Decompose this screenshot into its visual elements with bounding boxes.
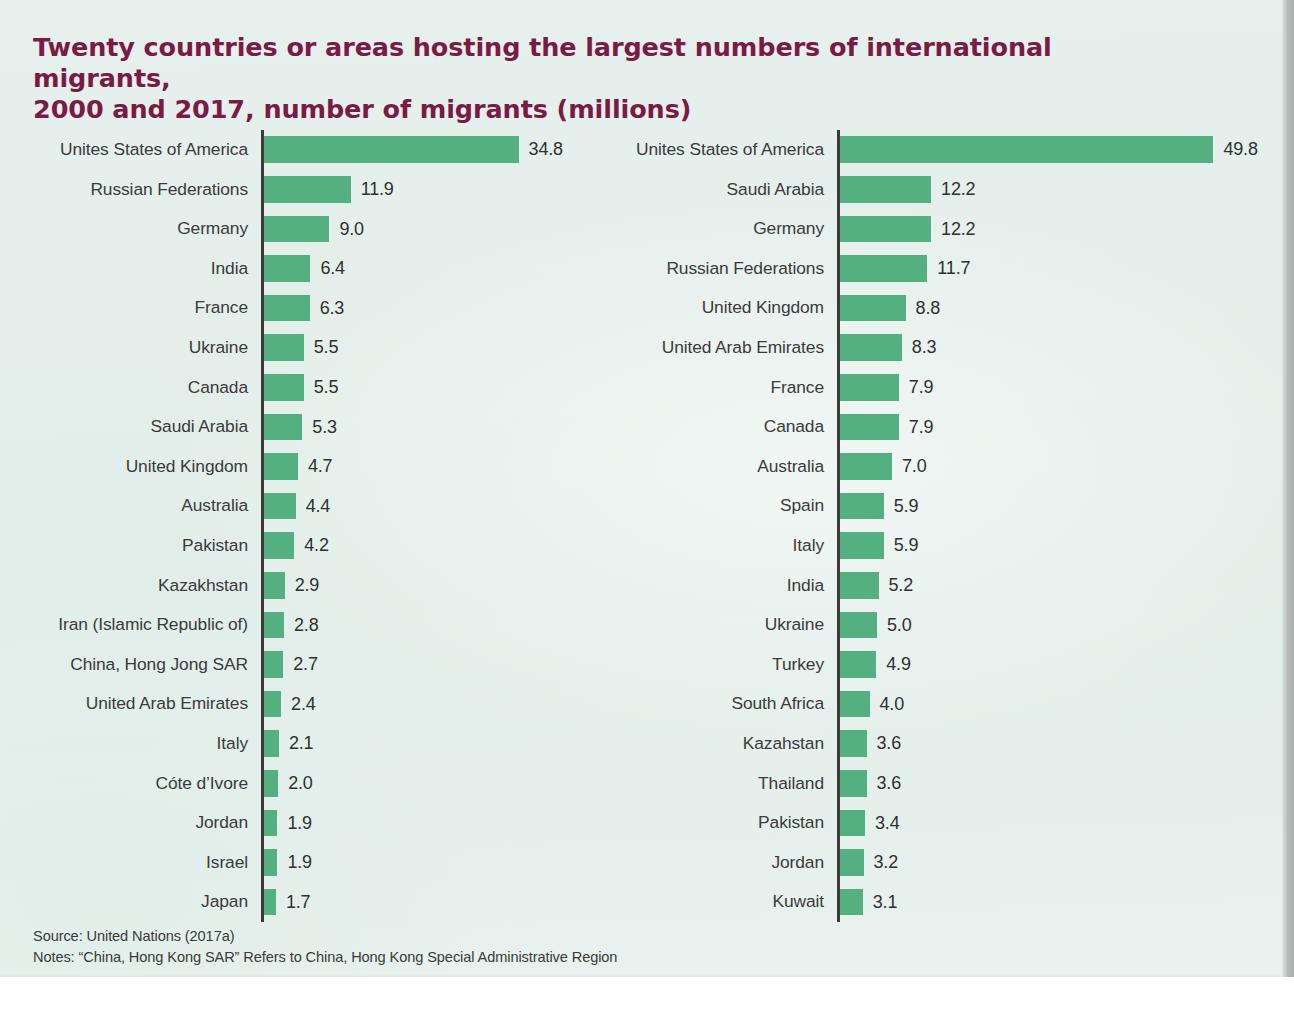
bar-row: Italy2.1: [0, 724, 600, 764]
bar-value-label: 3.2: [874, 849, 898, 876]
category-label: Saudi Arabia: [576, 170, 824, 210]
category-label: Ukraine: [576, 605, 824, 645]
bar-and-value: 4.0: [840, 691, 870, 718]
bar-row: United Arab Emirates8.3: [576, 328, 1276, 368]
bar-and-value: 5.3: [264, 414, 303, 441]
bar: [264, 532, 295, 559]
bar-value-label: 8.3: [912, 334, 936, 361]
bar-and-value: 11.9: [264, 176, 351, 203]
category-label: Jordan: [576, 843, 824, 883]
bar-and-value: 5.0: [840, 612, 878, 639]
category-label: Jordan: [0, 803, 248, 843]
category-label: Spain: [576, 486, 824, 526]
bar-row: United Kingdom4.7: [0, 447, 600, 487]
bar-and-value: 2.4: [264, 691, 282, 718]
bar-and-value: 12.2: [840, 176, 932, 203]
bar-row: Ukraine5.0: [576, 605, 1276, 645]
bar-value-label: 11.7: [937, 255, 970, 282]
bar-row: France7.9: [576, 368, 1276, 408]
bar-and-value: 4.9: [840, 651, 877, 678]
bar: [840, 810, 866, 837]
bar-row: Saudi Arabia12.2: [576, 170, 1276, 210]
bar-value-label: 7.0: [902, 453, 926, 480]
bar: [264, 612, 285, 639]
bar-row: Jordan3.2: [576, 843, 1276, 883]
bar-value-label: 6.4: [320, 255, 344, 282]
bar-row: Pakistan4.2: [0, 526, 600, 566]
bar-row: Australia7.0: [576, 447, 1276, 487]
bar-value-label: 6.3: [320, 295, 344, 322]
bar-row: Italy5.9: [576, 526, 1276, 566]
bar: [264, 889, 276, 916]
category-label: Japan: [0, 882, 248, 922]
bar: [264, 136, 519, 163]
bar-value-label: 4.2: [304, 532, 328, 559]
bar: [264, 691, 282, 718]
bar-row: Jordan1.9: [0, 803, 600, 843]
category-label: Canada: [576, 407, 824, 447]
footnotes: Source: United Nations (2017a) Notes: “C…: [33, 926, 617, 968]
bar-and-value: 1.9: [264, 849, 278, 876]
bar-value-label: 5.9: [894, 532, 918, 559]
bar: [840, 532, 884, 559]
bar-and-value: 3.2: [840, 849, 864, 876]
category-label: Russian Federations: [0, 170, 248, 210]
category-label: Kazahstan: [576, 724, 824, 764]
bar-value-label: 49.8: [1223, 136, 1257, 163]
bar: [264, 453, 298, 480]
bar-and-value: 1.7: [264, 889, 276, 916]
category-label: Germany: [0, 209, 248, 249]
bar: [840, 295, 906, 322]
bar-row: India5.2: [576, 566, 1276, 606]
bar-value-label: 4.7: [308, 453, 332, 480]
bar-row: Kazahstan3.6: [576, 724, 1276, 764]
category-label: Unites States of America: [576, 130, 824, 170]
bar-and-value: 6.3: [264, 295, 310, 322]
bar-value-label: 2.0: [288, 770, 312, 797]
bar-row: Iran (Islamic Republic of)2.8: [0, 605, 600, 645]
bar-row: United Kingdom8.8: [576, 288, 1276, 328]
category-label: United Arab Emirates: [0, 684, 248, 724]
bar-value-label: 1.7: [286, 889, 310, 916]
category-label: Turkey: [576, 645, 824, 685]
bar-value-label: 5.5: [314, 374, 338, 401]
bar: [264, 730, 279, 757]
bar-value-label: 4.0: [880, 691, 904, 718]
category-label: Italy: [576, 526, 824, 566]
bar: [264, 295, 310, 322]
bar-value-label: 11.9: [361, 176, 394, 203]
bar-and-value: 3.4: [840, 810, 866, 837]
category-label: China, Hong Jong SAR: [0, 645, 248, 685]
bar-and-value: 2.1: [264, 730, 279, 757]
category-label: Ukraine: [0, 328, 248, 368]
bar-and-value: 11.7: [840, 255, 928, 282]
bar-value-label: 2.9: [295, 572, 319, 599]
bar-value-label: 2.7: [293, 651, 317, 678]
bar-value-label: 5.3: [312, 414, 336, 441]
bar-row: Canada7.9: [576, 407, 1276, 447]
bar-row: Germany9.0: [0, 209, 600, 249]
category-label: Russian Federations: [576, 249, 824, 289]
bar-and-value: 49.8: [840, 136, 1214, 163]
bar-value-label: 12.2: [941, 176, 975, 203]
bar-and-value: 4.4: [264, 493, 296, 520]
category-label: India: [0, 249, 248, 289]
category-label: Pakistan: [0, 526, 248, 566]
bar-and-value: 5.9: [840, 532, 884, 559]
category-label: France: [0, 288, 248, 328]
category-label: Unites States of America: [0, 130, 248, 170]
category-label: Israel: [0, 843, 248, 883]
bar-row: Israel1.9: [0, 843, 600, 883]
bar: [840, 889, 863, 916]
bar-value-label: 3.6: [877, 730, 901, 757]
bar-and-value: 8.3: [840, 334, 902, 361]
category-label: United Kingdom: [576, 288, 824, 328]
bar-and-value: 2.7: [264, 651, 284, 678]
bar: [264, 770, 279, 797]
bar-and-value: 2.9: [264, 572, 285, 599]
bar-value-label: 5.0: [887, 612, 911, 639]
bar: [264, 493, 296, 520]
bar-and-value: 4.7: [264, 453, 298, 480]
bar: [264, 334, 304, 361]
source-note: Source: United Nations (2017a): [33, 926, 617, 947]
